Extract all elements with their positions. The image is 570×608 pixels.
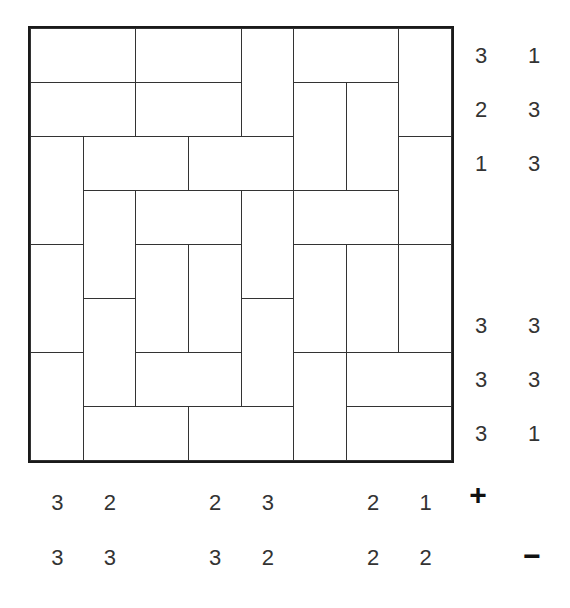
- domino-7-6[interactable]: [346, 406, 452, 461]
- domino-4-3[interactable]: [188, 244, 242, 353]
- domino-6-5[interactable]: [293, 352, 347, 461]
- row-clue-plus-2: 1: [466, 151, 496, 177]
- row-clue-minus-1: 3: [519, 97, 549, 123]
- domino-7-3[interactable]: [188, 406, 294, 461]
- row-clue-plus-5: 3: [466, 313, 496, 339]
- domino-5-4[interactable]: [241, 298, 295, 407]
- col-clue-plus-4: 3: [253, 490, 283, 516]
- row-clue-minus-0: 1: [519, 43, 549, 69]
- domino-5-1[interactable]: [83, 298, 137, 407]
- col-clue-minus-6: 2: [358, 545, 388, 571]
- domino-2-3[interactable]: [188, 136, 294, 191]
- puzzle-board: [28, 26, 454, 463]
- domino-1-2[interactable]: [135, 82, 241, 137]
- row-clue-plus-0: 3: [466, 43, 496, 69]
- domino-3-5[interactable]: [293, 190, 399, 245]
- domino-0-7[interactable]: [398, 28, 452, 137]
- domino-0-0[interactable]: [30, 28, 136, 83]
- col-clue-minus-7: 2: [411, 545, 441, 571]
- col-clue-minus-4: 2: [253, 545, 283, 571]
- domino-0-2[interactable]: [135, 28, 241, 83]
- plus-sign: +: [463, 480, 493, 510]
- domino-1-0[interactable]: [30, 82, 136, 137]
- col-clue-plus-0: 3: [42, 490, 72, 516]
- domino-4-7[interactable]: [398, 244, 452, 353]
- row-clue-minus-6: 3: [519, 367, 549, 393]
- row-clue-plus-7: 3: [466, 421, 496, 447]
- domino-3-2[interactable]: [135, 190, 241, 245]
- domino-6-2[interactable]: [135, 352, 241, 407]
- domino-1-5[interactable]: [293, 82, 347, 191]
- domino-0-5[interactable]: [293, 28, 399, 83]
- col-clue-plus-3: 2: [200, 490, 230, 516]
- domino-2-1[interactable]: [83, 136, 189, 191]
- row-clue-plus-6: 3: [466, 367, 496, 393]
- domino-4-6[interactable]: [346, 244, 400, 353]
- domino-0-4[interactable]: [241, 28, 295, 137]
- row-clue-minus-2: 3: [519, 151, 549, 177]
- minus-sign: −: [517, 541, 547, 571]
- domino-3-4[interactable]: [241, 190, 295, 299]
- domino-4-0[interactable]: [30, 244, 84, 353]
- col-clue-plus-1: 2: [95, 490, 125, 516]
- domino-1-6[interactable]: [346, 82, 400, 191]
- domino-4-2[interactable]: [135, 244, 189, 353]
- domino-7-1[interactable]: [83, 406, 189, 461]
- col-clue-minus-3: 3: [200, 545, 230, 571]
- domino-3-1[interactable]: [83, 190, 137, 299]
- col-clue-plus-6: 2: [358, 490, 388, 516]
- col-clue-minus-0: 3: [42, 545, 72, 571]
- row-clue-plus-1: 2: [466, 97, 496, 123]
- col-clue-minus-1: 3: [95, 545, 125, 571]
- domino-4-5[interactable]: [293, 244, 347, 353]
- row-clue-minus-7: 1: [519, 421, 549, 447]
- row-clue-minus-5: 3: [519, 313, 549, 339]
- domino-2-7[interactable]: [398, 136, 452, 245]
- domino-2-0[interactable]: [30, 136, 84, 245]
- domino-6-0[interactable]: [30, 352, 84, 461]
- domino-6-6[interactable]: [346, 352, 452, 407]
- col-clue-plus-7: 1: [411, 490, 441, 516]
